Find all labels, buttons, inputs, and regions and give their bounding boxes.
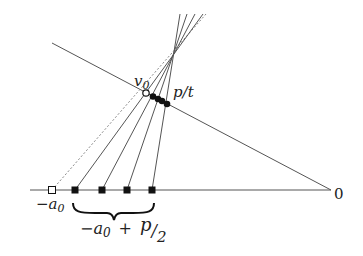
- filled-square-marker: [149, 187, 156, 194]
- open-square-marker: [49, 187, 56, 194]
- dotted-line: [52, 14, 206, 190]
- filled-square-marker: [99, 187, 106, 194]
- diagram-canvas: v0 p/t −a0 0 −a0+p/2: [0, 0, 363, 256]
- slanted-line: [52, 43, 331, 190]
- label-neg-a0: −a0: [36, 195, 65, 215]
- filled-circle-marker: [164, 101, 171, 108]
- label-p-over-t: p/t: [173, 83, 195, 101]
- label-brace-expression: −a0+p/2: [80, 214, 166, 246]
- label-zero: 0: [334, 185, 344, 203]
- fan-line-2: [102, 14, 195, 190]
- filled-square-marker: [72, 187, 79, 194]
- fan-line-1: [75, 14, 203, 190]
- filled-square-marker: [124, 187, 131, 194]
- label-v0: v0: [134, 72, 149, 92]
